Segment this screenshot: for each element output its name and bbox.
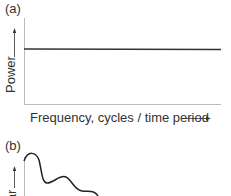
- panel-a-series-line: [24, 49, 221, 50]
- panel-b-y-label: ar: [4, 190, 19, 196]
- panel-a-x-label: Frequency, cycles / time period: [30, 110, 209, 125]
- panel-b-series-line: [24, 153, 98, 196]
- chart-canvas: [0, 0, 231, 196]
- panel-b-label: (b): [5, 138, 21, 153]
- panel-a-y-label: Power: [3, 56, 18, 93]
